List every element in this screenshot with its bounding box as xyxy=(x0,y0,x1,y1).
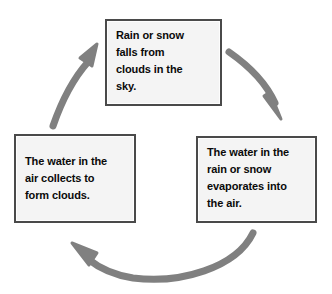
node-evaporation-text: The water in the rain or snow evaporates… xyxy=(207,144,307,212)
node-precipitation-text: Rain or snow falls from clouds in the sk… xyxy=(116,27,212,95)
node-evaporation: The water in the rain or snow evaporates… xyxy=(196,136,317,223)
node-precipitation: Rain or snow falls from clouds in the sk… xyxy=(105,19,222,106)
node-condensation-text: The water in the air collects to form cl… xyxy=(25,153,107,204)
arrow-precipitation-to-evaporation xyxy=(229,52,281,119)
node-condensation: The water in the air collects to form cl… xyxy=(14,134,136,223)
arrow-evaporation-to-condensation xyxy=(72,233,253,279)
diagram-canvas: Rain or snow falls from clouds in the sk… xyxy=(0,0,332,294)
arrow-condensation-to-precipitation xyxy=(53,44,97,126)
